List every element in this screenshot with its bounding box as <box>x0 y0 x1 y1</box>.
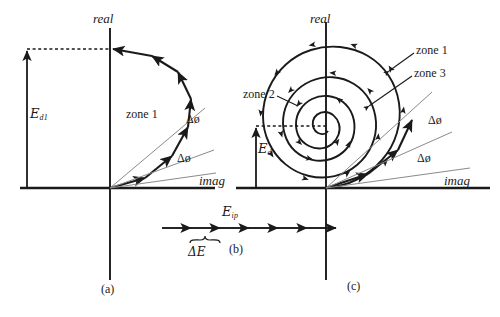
panel-c-spiral <box>263 47 400 188</box>
panel-b-caption: (b) <box>229 243 243 255</box>
panel-c-group <box>236 22 490 280</box>
panel-c-imag-axis-label: imag <box>444 174 470 187</box>
panel-a-caption: (a) <box>101 283 114 295</box>
panel-a-imag-axis-label: imag <box>199 174 225 187</box>
panel-b-amplitude-label: Eip <box>222 203 238 220</box>
panel-a-real-axis-label: real <box>93 12 113 25</box>
panel-a-phase-step-label-1: Δø <box>186 113 200 125</box>
figure-root: real imag zone 1 Ed1 Δø Δø (a) Eip ΔE (b… <box>0 0 500 317</box>
panel-a-phase-step-label-2: Δø <box>177 152 191 164</box>
panel-c-zone-label-1: zone 1 <box>416 44 448 56</box>
panel-c-zone-label-3: zone 3 <box>414 67 446 79</box>
panel-b-amplitude-subscript: ip <box>232 211 239 220</box>
zone1-leader <box>389 53 414 71</box>
panel-b-step-brace <box>190 236 220 243</box>
panel-c-zone-label-2: zone 2 <box>243 88 275 100</box>
panel-a-field-subscript: d1 <box>40 113 49 122</box>
panel-c-field-symbol: E <box>258 141 268 156</box>
panel-c-field-label: Ed <box>258 140 272 157</box>
panel-c-real-axis-label: real <box>310 12 330 25</box>
panel-b-step-symbol: ΔE <box>188 245 205 259</box>
panel-c-field-subscript: d <box>268 148 272 157</box>
panel-a-field-symbol: E <box>30 106 40 121</box>
panel-a-zone-label: zone 1 <box>126 108 158 120</box>
panel-a-field-label: Ed1 <box>30 105 48 122</box>
panel-b-step-label: ΔE <box>188 243 205 259</box>
panel-b-group <box>162 228 336 243</box>
panel-b-amplitude-symbol: E <box>222 204 232 219</box>
panel-c-phase-step-label-2: Δø <box>417 152 431 164</box>
panel-c-phase-step-label-1: Δø <box>428 114 442 126</box>
zone3-leader <box>369 76 412 106</box>
panel-c-caption: (c) <box>347 280 360 292</box>
